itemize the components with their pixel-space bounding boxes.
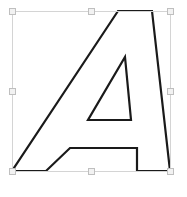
handle-bottom-center[interactable] [88,168,94,174]
handle-top-left[interactable] [9,8,15,14]
handle-bottom-left[interactable] [9,168,15,174]
letter-a-shape[interactable] [12,11,170,171]
handle-bottom-right[interactable] [167,168,173,174]
handle-middle-right[interactable] [167,88,173,94]
vector-graphic [0,0,187,197]
handle-middle-left[interactable] [9,88,15,94]
letter-a-outline-path[interactable] [12,11,170,171]
handle-top-right[interactable] [167,8,173,14]
handle-top-center[interactable] [88,8,94,14]
vector-editor-canvas[interactable] [0,0,187,197]
